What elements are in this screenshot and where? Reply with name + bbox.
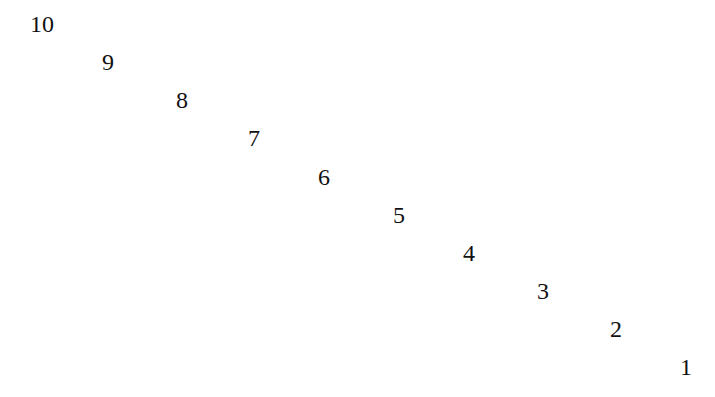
number-4: 4	[463, 241, 475, 265]
number-9: 9	[102, 50, 114, 74]
number-7: 7	[248, 126, 260, 150]
number-3: 3	[537, 279, 549, 303]
number-8: 8	[176, 88, 188, 112]
number-6: 6	[318, 165, 330, 189]
number-2: 2	[610, 317, 622, 341]
number-10: 10	[30, 12, 54, 36]
number-1: 1	[680, 355, 692, 379]
number-5: 5	[393, 203, 405, 227]
